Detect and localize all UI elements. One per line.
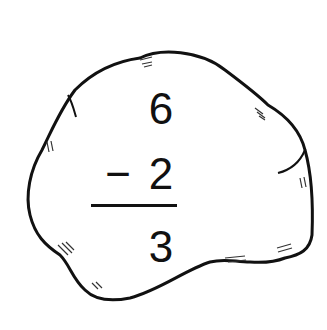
subtrahend-digit: 2 bbox=[141, 152, 181, 196]
answer-digit: 3 bbox=[141, 225, 181, 269]
minus-sign: − bbox=[98, 152, 138, 196]
worksheet-card: 6 − 2 3 bbox=[0, 0, 327, 330]
minuend-digit: 6 bbox=[141, 87, 181, 131]
equals-bar bbox=[91, 204, 177, 207]
